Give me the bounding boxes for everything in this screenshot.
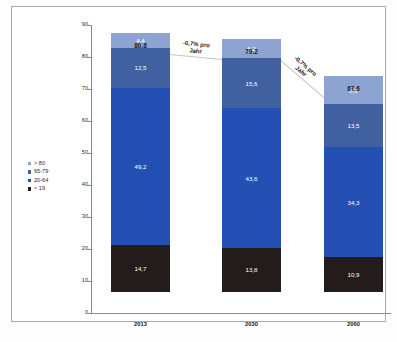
growth-rate-annotation: -0,7% pro Jahr [275, 44, 329, 94]
bar-segment[interactable]: 13,8 [222, 248, 281, 292]
y-axis-tick-label: 30 [62, 214, 88, 220]
y-axis-tick-mark [88, 281, 91, 282]
y-axis-tick-mark [88, 25, 91, 26]
bar-segment[interactable]: 10,9 [324, 257, 383, 292]
bar-segment[interactable]: 12,5 [111, 48, 170, 88]
bar-segment-value-label: 15,6 [245, 80, 257, 87]
bar-segment-value-label: 12,5 [134, 64, 146, 71]
y-axis-tick-mark [88, 249, 91, 250]
y-axis-tick-mark [88, 57, 91, 58]
bar-segment-value-label: 14,7 [134, 265, 146, 272]
bar-segment-value-label: 34,3 [347, 199, 359, 206]
bar-segment-value-label: 10,9 [347, 271, 359, 278]
legend-item-label: 65-79 [34, 169, 48, 175]
y-axis-tick-label: 0 [62, 310, 88, 316]
bar-segment-value-label: 13,5 [347, 122, 359, 129]
y-axis-line [91, 25, 92, 313]
chart-screenshot: 9080706050403020100 4,412,549,214,780.82… [0, 0, 397, 342]
legend-item-label: 20-64 [34, 178, 48, 184]
bar-segment-value-label: 13,8 [245, 266, 257, 273]
legend-color-swatch-icon [28, 187, 31, 190]
y-axis-tick-mark [88, 185, 91, 186]
bar-total-label: 79.2 [222, 48, 281, 55]
legend-item[interactable]: 65-79 [28, 168, 48, 177]
legend-item-label: > 80 [34, 161, 45, 167]
bar-segment[interactable]: 13,5 [324, 104, 383, 147]
y-axis-tick-mark [88, 217, 91, 218]
legend-color-swatch-icon [28, 179, 31, 182]
legend-color-swatch-icon [28, 162, 31, 165]
legend-item-label: < 19 [34, 186, 45, 192]
legend-color-swatch-icon [28, 170, 31, 173]
bar-segment[interactable]: 49,2 [111, 88, 170, 245]
y-axis-tick-mark [88, 121, 91, 122]
y-axis: 9080706050403020100 [58, 7, 88, 321]
y-axis-tick-label: 50 [62, 150, 88, 156]
bar-segment-value-label: 43,6 [245, 175, 257, 182]
y-axis-tick-label: 60 [62, 118, 88, 124]
bar-segment[interactable]: 14,7 [111, 245, 170, 292]
stacked-bar[interactable]: 6,215,643,613,8 [222, 39, 281, 292]
chart-plot-area: 9080706050403020100 4,412,549,214,780.82… [11, 6, 386, 322]
bar-segment[interactable]: 43,6 [222, 108, 281, 248]
bar-total-label: 67.6 [324, 85, 383, 92]
y-axis-tick-label: 40 [62, 182, 88, 188]
bar-segment-value-label: 49,2 [134, 163, 146, 170]
legend-item[interactable]: 20-64 [28, 176, 48, 185]
legend-item[interactable]: > 80 [28, 159, 48, 168]
figure-caption [11, 327, 386, 339]
bar-segment[interactable]: 34,3 [324, 147, 383, 257]
bar-segment[interactable]: 15,6 [222, 58, 281, 108]
y-axis-tick-mark [88, 89, 91, 90]
y-axis-tick-label: 90 [62, 22, 88, 28]
y-axis-tick-mark [88, 313, 91, 314]
legend-item[interactable]: < 19 [28, 185, 48, 194]
stacked-bar[interactable]: 4,412,549,214,7 [111, 33, 170, 292]
stacked-bar[interactable]: 8,813,534,310,9 [324, 76, 383, 292]
y-axis-tick-label: 10 [62, 278, 88, 284]
y-axis-tick-label: 70 [62, 86, 88, 92]
chart-legend: > 8065-7920-64< 19 [28, 159, 48, 193]
y-axis-tick-label: 80 [62, 54, 88, 60]
y-axis-tick-label: 20 [62, 246, 88, 252]
y-axis-tick-mark [88, 153, 91, 154]
bar-total-label: 80.8 [111, 42, 170, 49]
x-axis-line [91, 313, 391, 314]
